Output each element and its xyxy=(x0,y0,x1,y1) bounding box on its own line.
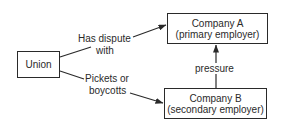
company-a-title: Company A xyxy=(192,18,244,29)
pressure-edge-label: pressure xyxy=(194,63,235,74)
pickets-edge-label-line-1: Pickets or xyxy=(85,73,129,84)
secondary-boycott-diagram: Union Company A (primary employer) Compa… xyxy=(0,0,282,130)
pickets-edge-label-line-2: boycotts xyxy=(89,85,126,96)
company-b-title: Company B xyxy=(189,93,241,104)
company-b-node: Company B (secondary employer) xyxy=(164,88,267,119)
union-node: Union xyxy=(17,51,60,78)
dispute-edge-label-line-1: Has dispute xyxy=(78,33,131,44)
company-a-subtitle: (primary employer) xyxy=(176,29,260,40)
company-a-node: Company A (primary employer) xyxy=(167,13,268,44)
dispute-edge-label-line-2: with xyxy=(96,45,114,56)
union-label: Union xyxy=(25,59,51,70)
company-b-subtitle: (secondary employer) xyxy=(167,104,264,115)
